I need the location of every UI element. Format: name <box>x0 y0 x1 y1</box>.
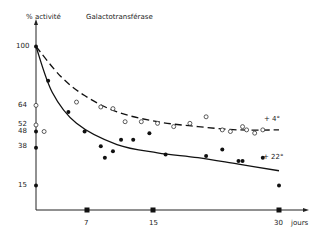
data-point <box>99 105 103 109</box>
y-tick-100: 100 <box>16 43 29 50</box>
data-point <box>220 148 224 152</box>
data-point <box>34 103 38 107</box>
x-tick-7: 7 <box>84 220 88 227</box>
x-axis-label: jours <box>291 220 308 227</box>
data-point <box>241 125 245 129</box>
y-tick-38: 38 <box>18 143 27 150</box>
series-label-22deg: + 22° <box>263 154 284 161</box>
data-point <box>188 121 192 125</box>
data-point <box>34 146 38 150</box>
data-point <box>245 128 249 132</box>
data-point <box>66 110 70 114</box>
data-point <box>34 183 38 187</box>
data-point <box>204 154 208 158</box>
data-point <box>75 100 79 104</box>
data-point <box>46 79 50 83</box>
y-tick-15: 15 <box>18 182 27 189</box>
data-point <box>228 130 232 134</box>
y-tick-64: 64 <box>18 102 27 109</box>
fit-curve-0 <box>36 47 279 131</box>
x-tick-15: 15 <box>149 220 158 227</box>
data-point <box>241 159 245 163</box>
data-point <box>34 130 38 134</box>
data-point <box>204 115 208 119</box>
data-point <box>111 107 115 111</box>
series-label-4deg: + 4° <box>264 116 280 123</box>
data-point <box>147 131 151 135</box>
data-point <box>83 130 87 134</box>
data-points <box>34 45 281 188</box>
fit-curves <box>36 47 279 171</box>
data-point <box>253 131 257 135</box>
x-axis-arrow-icon <box>303 208 309 212</box>
data-point <box>131 138 135 142</box>
x-tick-30: 30 <box>274 220 283 227</box>
data-point <box>164 152 168 156</box>
data-point <box>34 45 38 49</box>
data-point <box>103 156 107 160</box>
data-point <box>156 121 160 125</box>
y-tick-48: 48 <box>18 128 27 135</box>
data-point <box>99 144 103 148</box>
fit-curve-1 <box>36 47 279 171</box>
data-point <box>261 128 265 132</box>
data-point <box>119 138 123 142</box>
data-point <box>237 159 241 163</box>
y-axis-label: % activité <box>26 14 61 21</box>
data-point <box>123 120 127 124</box>
chart-title: Galactotransférase <box>86 14 153 21</box>
data-point <box>172 125 176 129</box>
data-point <box>42 130 46 134</box>
data-point <box>34 123 38 127</box>
data-point <box>111 149 115 153</box>
data-point <box>220 128 224 132</box>
data-point <box>277 183 281 187</box>
data-point <box>139 120 143 124</box>
